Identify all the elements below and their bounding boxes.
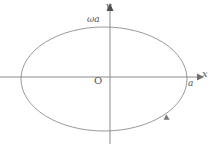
phase-diagram-figure: v x a ωa O bbox=[0, 0, 214, 144]
y-intercept-label: ωa bbox=[87, 15, 100, 24]
y-axis bbox=[107, 3, 114, 144]
x-intercept-label: a bbox=[188, 79, 193, 88]
y-axis-label: v bbox=[106, 1, 112, 11]
x-axis-label: x bbox=[202, 69, 208, 79]
phase-ellipse bbox=[21, 27, 187, 131]
phase-diagram-canvas bbox=[0, 0, 214, 144]
origin-label: O bbox=[94, 76, 102, 86]
